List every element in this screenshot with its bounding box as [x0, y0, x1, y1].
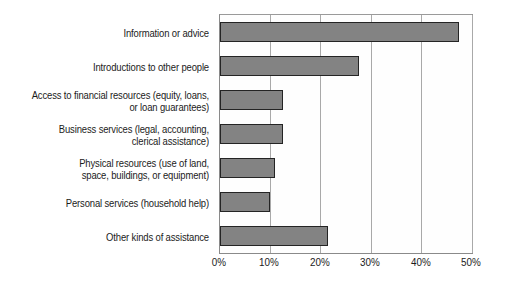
gridline-30	[371, 15, 372, 253]
bar	[220, 22, 459, 42]
category-label: Personal services (household help)	[15, 198, 209, 210]
bar	[220, 90, 283, 110]
category-label: Business services (legal, accounting, cl…	[15, 124, 209, 147]
gridline-40	[421, 15, 422, 253]
bar	[220, 192, 270, 212]
category-label: Introductions to other people	[15, 62, 209, 74]
category-label: Physical resources (use of land, space, …	[15, 158, 209, 181]
x-tick-label: 0%	[212, 256, 226, 269]
bar	[220, 56, 359, 76]
gridline-50	[472, 15, 473, 253]
bar-chart: Information or advice Introductions to o…	[0, 0, 506, 286]
x-tick-label: 40%	[411, 256, 431, 269]
category-label-column: Information or advice Introductions to o…	[0, 14, 214, 252]
bar	[220, 226, 328, 246]
plot-area	[219, 14, 473, 254]
bar	[220, 158, 275, 178]
x-axis-tick-labels: 0% 10% 20% 30% 40% 50%	[0, 256, 506, 276]
x-tick-label: 50%	[461, 256, 481, 269]
gridline-20	[320, 15, 321, 253]
category-label: Access to financial resources (equity, l…	[15, 90, 209, 113]
bar	[220, 124, 283, 144]
category-label: Other kinds of assistance	[15, 232, 209, 244]
x-tick-label: 20%	[310, 256, 330, 269]
x-tick-label: 10%	[260, 256, 280, 269]
x-tick-label: 30%	[360, 256, 380, 269]
category-label: Information or advice	[15, 28, 209, 40]
